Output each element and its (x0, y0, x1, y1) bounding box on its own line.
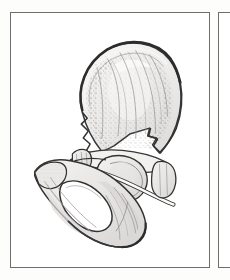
scan-haze-overlay (11, 13, 209, 267)
atlas-page (0, 0, 230, 280)
main-figure-panel (10, 12, 210, 268)
hip-bone-illustration (11, 13, 209, 267)
adjacent-figure-panel (218, 12, 230, 268)
